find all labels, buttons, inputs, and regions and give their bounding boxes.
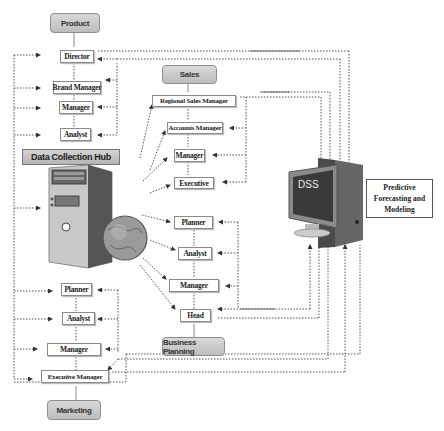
predictive-forecasting-modeling-box: Predictive Forecasting and Modeling (366, 179, 433, 218)
pfm-line-2: Forecasting and (367, 193, 432, 204)
sales-role-regional-sales-manager: Regional Sales Manager (152, 95, 236, 107)
product-role-brand-manager: Brand Manager (53, 81, 101, 94)
bp-role-manager: Manager (169, 279, 219, 292)
mkt-role-manager: Manager (47, 343, 101, 356)
dss-computer-icon (289, 158, 363, 248)
sales-role-executive: Executive (174, 177, 214, 189)
dss-label: DSS (298, 179, 319, 190)
bp-role-analyst: Analyst (178, 247, 212, 260)
bp-role-head: Head (180, 309, 211, 322)
product-role-manager: Manager (59, 101, 93, 114)
product-role-director: Director (60, 50, 94, 63)
sales-role-accounts-manager: Accounts Manager (167, 122, 223, 134)
server-icon (49, 165, 147, 268)
data-collection-hub-label: Data Collection Hub (22, 149, 120, 165)
department-product: Product (50, 13, 100, 33)
mkt-role-executive-manager: Executive Manager (41, 370, 109, 383)
department-business-planning: Business Planning (162, 337, 225, 356)
pfm-line-1: Predictive (367, 182, 432, 193)
product-role-analyst: Analyst (60, 128, 91, 141)
department-marketing: Marketing (47, 400, 101, 420)
mkt-role-planner: Planner (61, 283, 92, 296)
mkt-role-analyst: Analyst (62, 312, 95, 325)
pfm-line-3: Modeling (367, 204, 432, 215)
bp-role-planner: Planner (174, 216, 213, 229)
sales-role-manager: Manager (174, 149, 205, 162)
department-sales: Sales (162, 65, 217, 84)
